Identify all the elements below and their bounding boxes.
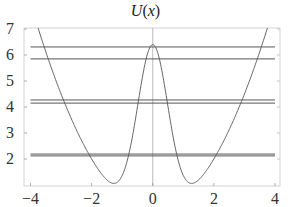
x-tick-label: 2	[210, 190, 218, 207]
x-tick-label: 0	[149, 190, 157, 207]
x-tick-label: 4	[271, 190, 279, 207]
axis-ticks: −4−2024234567	[6, 20, 280, 207]
y-tick-label: 3	[6, 124, 14, 141]
y-tick-label: 7	[6, 20, 14, 37]
y-tick-label: 5	[6, 72, 14, 89]
y-tick-label: 6	[6, 46, 14, 63]
frame-rect	[24, 28, 280, 186]
potential-plot: −4−2024234567	[0, 0, 291, 207]
x-tick-label: −4	[22, 190, 39, 207]
x-tick-label: −2	[83, 190, 100, 207]
y-tick-label: 2	[6, 150, 14, 167]
plot-frame	[24, 28, 280, 186]
y-tick-label: 4	[6, 98, 14, 115]
